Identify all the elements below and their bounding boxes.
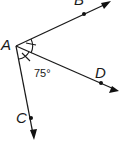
arrowhead-b-icon — [101, 1, 111, 9]
angle-arc-bad — [31, 39, 33, 53]
point-b — [82, 12, 86, 16]
vertex-label-a: A — [0, 36, 11, 53]
angle-measure-label: 75° — [34, 67, 51, 79]
congruence-tick-2 — [22, 53, 30, 61]
point-label-b: B — [74, 0, 84, 8]
congruence-tick-1 — [26, 43, 36, 45]
point-d — [99, 81, 103, 85]
arrowhead-c-icon — [30, 129, 37, 140]
point-label-c: C — [16, 109, 27, 126]
angle-diagram: A B D C 75° — [0, 0, 125, 145]
ray-ab — [16, 4, 106, 46]
point-c — [29, 116, 33, 120]
point-label-d: D — [95, 64, 106, 81]
